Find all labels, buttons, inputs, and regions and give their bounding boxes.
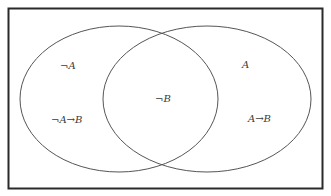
label-a-implies-b: A→B: [247, 113, 271, 124]
right-set-ellipse: [103, 26, 311, 172]
left-set-ellipse: [20, 26, 218, 172]
venn-diagram: ¬A ¬A→B ¬B A A→B: [0, 0, 331, 196]
label-not-a: ¬A: [60, 60, 76, 71]
label-not-a-implies-b: ¬A→B: [51, 114, 82, 125]
label-not-b: ¬B: [155, 93, 171, 104]
label-a: A: [241, 59, 249, 70]
